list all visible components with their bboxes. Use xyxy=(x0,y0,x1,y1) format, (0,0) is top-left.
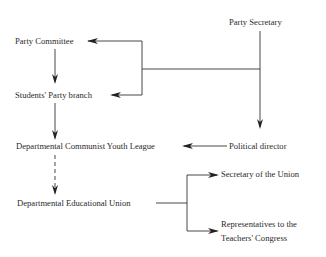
node-representatives-line2: Teachers' Congress xyxy=(221,233,287,243)
node-dept-educational-union: Departmental Educational Union xyxy=(17,198,131,208)
node-secretary-of-union: Secretary of the Union xyxy=(221,169,299,179)
node-party-committee: Party Committee xyxy=(15,36,73,46)
node-students-party-branch: Students' Party branch xyxy=(15,90,92,100)
organization-diagram: Party Secretary Party Committee Students… xyxy=(0,0,326,257)
node-dept-communist-youth-league: Departmental Communist Youth League xyxy=(16,141,155,151)
node-representatives-line1: Representatives to the xyxy=(221,219,297,229)
node-political-director: Political director xyxy=(229,141,287,151)
node-party-secretary: Party Secretary xyxy=(229,17,282,27)
